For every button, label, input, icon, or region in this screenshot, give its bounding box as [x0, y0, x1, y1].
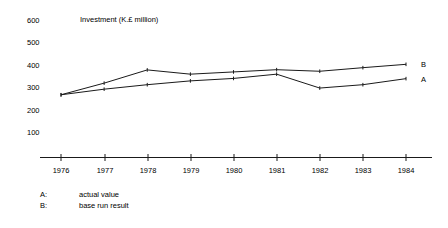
x-tick-label: 1978: [140, 166, 157, 175]
x-axis-tick-labels: 1976 1977 1978 1979 1980 1981 1982 1983 …: [53, 166, 415, 175]
x-tick-label: 1983: [355, 166, 372, 175]
x-tick-label: 1981: [269, 166, 286, 175]
series-markers-a: [61, 72, 406, 96]
legend-label-b: base run result: [79, 201, 130, 210]
investment-line-chart: Investment (K.£ million) 600 500 400 300…: [0, 0, 448, 228]
x-tick-label: 1982: [312, 166, 329, 175]
y-tick-label: 300: [27, 83, 40, 92]
chart-page: Investment (K.£ million) 600 500 400 300…: [0, 0, 448, 228]
y-axis-tick-labels: 600 500 400 300 200 100: [27, 16, 40, 137]
y-tick-label: 400: [27, 61, 40, 70]
x-tick-label: 1980: [226, 166, 243, 175]
y-tick-label: 500: [27, 38, 40, 47]
legend-label-a: actual value: [79, 190, 119, 199]
legend-key-b: B:: [40, 201, 47, 210]
legend-key-a: A:: [40, 190, 47, 199]
chart-title: Investment (K.£ million): [80, 15, 159, 24]
x-tick-label: 1979: [183, 166, 200, 175]
x-tick-label: 1984: [398, 166, 415, 175]
series-end-label-b: B: [421, 60, 426, 69]
series-end-label-a: A: [421, 75, 426, 84]
legend: A: actual value B: base run result: [40, 190, 130, 210]
y-tick-label: 100: [27, 128, 40, 137]
x-tick-label: 1977: [97, 166, 114, 175]
x-tick-label: 1976: [53, 166, 70, 175]
y-tick-label: 200: [27, 106, 40, 115]
y-tick-label: 600: [27, 16, 40, 25]
